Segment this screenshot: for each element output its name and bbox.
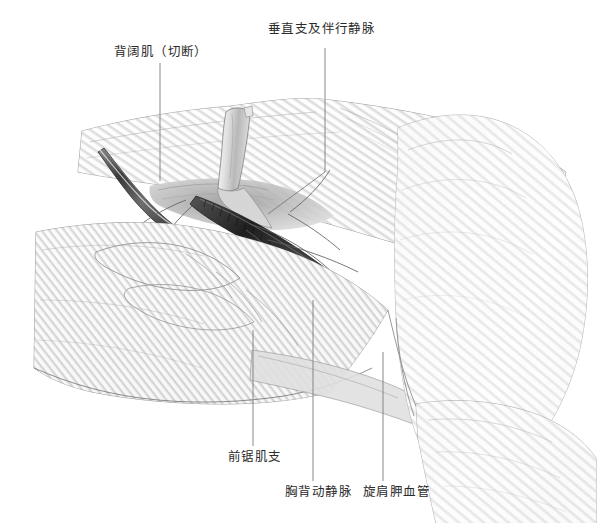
label-latissimus-dorsi: 背阔肌（切断） [114,45,208,59]
anatomy-figure-page: 背阔肌（切断） 垂直支及伴行静脉 前锯肌支 胸背动静脉 旋肩胛血管 [0,0,602,523]
upper-arm [416,401,596,523]
label-vertical-branch: 垂直支及伴行静脉 [268,22,375,36]
label-thoracodorsal-vessels: 胸背动静脉 [285,485,352,499]
anatomy-illustration [0,0,602,523]
label-serratus-branch: 前锯肌支 [228,450,282,464]
label-circumflex-scapular-vessels: 旋肩胛血管 [363,485,430,499]
